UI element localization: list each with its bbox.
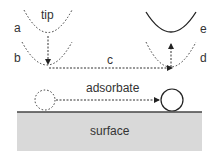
diagram-root: tip a b c d e adsorbate surface [0, 0, 215, 155]
adsorbate-final [161, 89, 183, 111]
label-e: e [200, 23, 207, 35]
label-b: b [14, 52, 21, 64]
label-c: c [107, 54, 113, 66]
label-surface: surface [90, 125, 129, 137]
label-d: d [200, 52, 207, 64]
label-adsorbate: adsorbate [86, 82, 139, 94]
label-a: a [14, 22, 21, 34]
tip-position-e [146, 12, 196, 32]
label-tip: tip [41, 9, 54, 21]
adsorbate-initial [35, 90, 55, 110]
tip-position-b [22, 42, 72, 65]
